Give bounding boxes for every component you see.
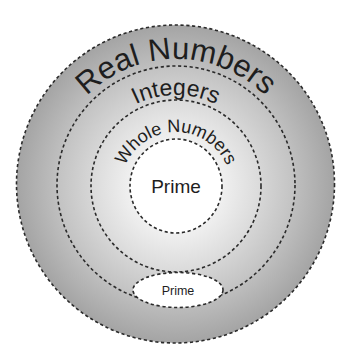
number-sets-diagram: Real Numbers Integers Whole Numbers Prim… xyxy=(0,0,350,360)
label-prime-inner: Prime xyxy=(151,176,201,197)
label-prime-ellipse: Prime xyxy=(162,284,195,298)
